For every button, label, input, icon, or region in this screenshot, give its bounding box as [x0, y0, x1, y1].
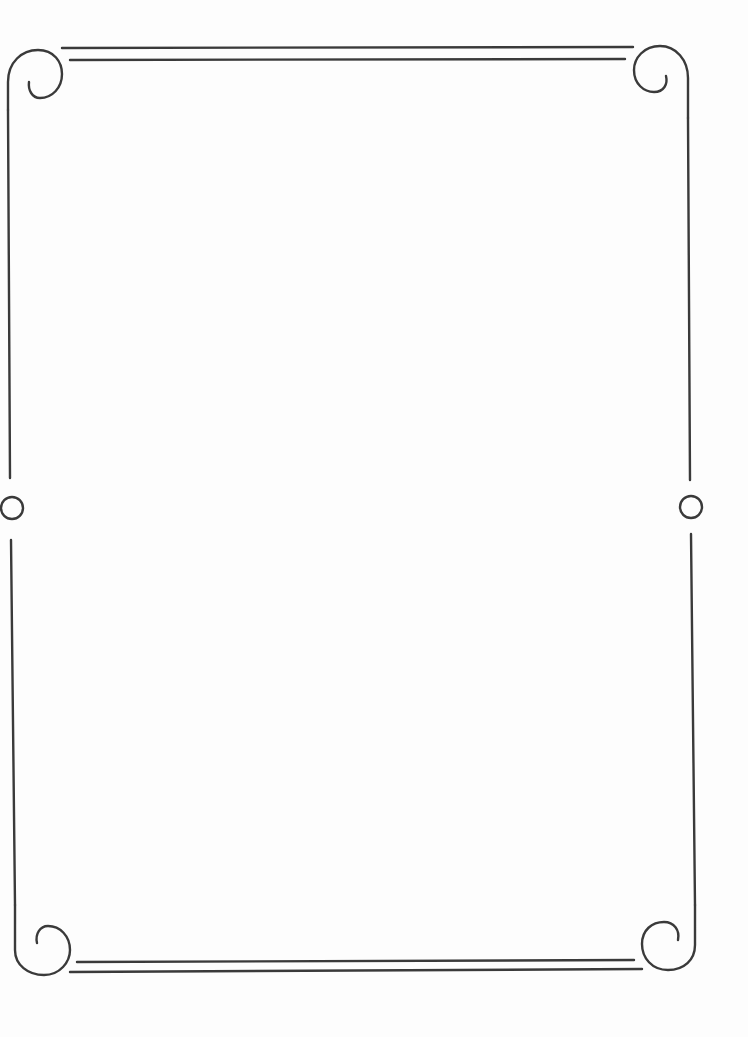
- right-edge-lower-line: [691, 534, 695, 905]
- spiral-curl-icon: [642, 905, 695, 970]
- bottom-outer-line: [70, 969, 642, 972]
- circle-icon: [1, 497, 23, 519]
- top-outer-line: [62, 47, 633, 48]
- top-inner-line: [70, 59, 625, 60]
- right-edge-upper-line: [688, 118, 690, 480]
- left-edge-lower-line: [11, 540, 15, 905]
- spiral-curl-icon: [634, 46, 688, 118]
- bottom-inner-line: [77, 960, 634, 962]
- spiral-curl-icon: [8, 50, 62, 110]
- page-border-frame: [0, 0, 748, 1037]
- left-edge-upper-line: [8, 110, 10, 478]
- decorative-page: [0, 0, 748, 1037]
- spiral-curl-icon: [15, 905, 70, 975]
- circle-icon: [680, 496, 702, 518]
